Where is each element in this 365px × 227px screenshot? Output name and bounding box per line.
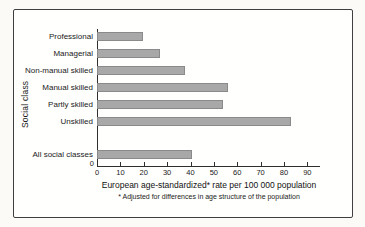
x-tick-label-70: 70	[256, 168, 264, 177]
bar-partly-skilled	[97, 100, 223, 109]
x-tick-mark-60	[237, 162, 238, 166]
x-axis-title: European age-standardized* rate per 100 …	[84, 180, 334, 190]
x-tick-mark-0	[97, 162, 98, 166]
x-tick-label-0: 0	[95, 168, 99, 177]
y-axis-zero-label: 0	[72, 159, 94, 168]
x-tick-mark-70	[261, 162, 262, 166]
category-label-professional: Professional	[16, 32, 93, 41]
category-label-partly-skilled: Partly skilled	[16, 100, 93, 109]
plot-area: Social class 0 European age-standardized…	[14, 10, 352, 217]
x-tick-label-10: 10	[116, 168, 124, 177]
category-label-managerial: Managerial	[16, 49, 93, 58]
x-tick-mark-10	[120, 162, 121, 166]
x-tick-label-30: 30	[163, 168, 171, 177]
category-label-manual-skilled: Manual skilled	[16, 83, 93, 92]
x-tick-mark-50	[214, 162, 215, 166]
x-tick-label-50: 50	[210, 168, 218, 177]
footnote: * Adjusted for differences in age struct…	[84, 193, 334, 200]
bar-unskilled	[97, 117, 291, 126]
bar-all-social-classes	[97, 150, 192, 159]
x-tick-mark-20	[144, 162, 145, 166]
chart-screenshot: Social class 0 European age-standardized…	[0, 0, 365, 227]
category-label-unskilled: Unskilled	[16, 117, 93, 126]
bar-non-manual-skilled	[97, 66, 185, 75]
chart-frame: Social class 0 European age-standardized…	[13, 9, 353, 218]
bar-manual-skilled	[97, 83, 228, 92]
category-label-all-social-classes: All social classes	[16, 150, 93, 159]
x-tick-mark-90	[307, 162, 308, 166]
bar-professional	[97, 32, 143, 41]
x-tick-mark-40	[191, 162, 192, 166]
x-axis-line	[97, 166, 320, 167]
category-label-non-manual-skilled: Non-manual skilled	[16, 66, 93, 75]
x-tick-label-20: 20	[140, 168, 148, 177]
x-tick-mark-30	[167, 162, 168, 166]
x-tick-label-90: 90	[303, 168, 311, 177]
bar-managerial	[97, 49, 160, 58]
x-tick-label-60: 60	[233, 168, 241, 177]
x-tick-label-40: 40	[186, 168, 194, 177]
x-tick-mark-80	[284, 162, 285, 166]
x-tick-label-80: 80	[280, 168, 288, 177]
